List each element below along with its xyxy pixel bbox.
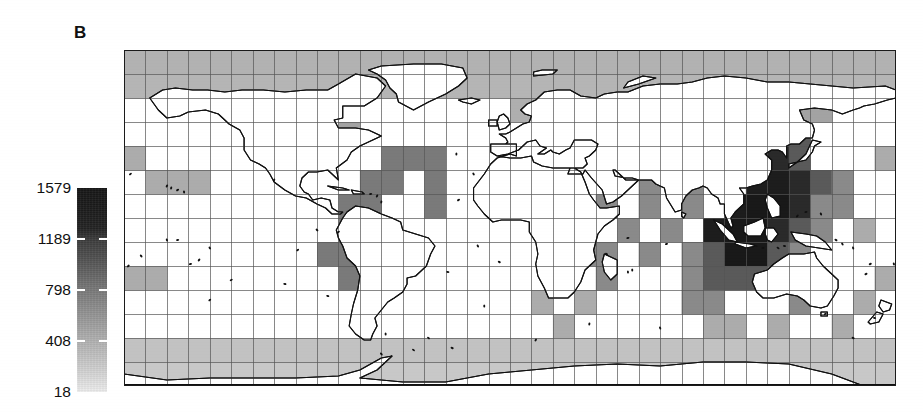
colorbar-tick-mark	[99, 340, 107, 342]
world-grid-map	[124, 50, 896, 386]
colorbar-tick-label: 1579	[5, 180, 71, 196]
colorbar-tick-mark	[77, 340, 85, 342]
colorbar-tick-mark	[77, 289, 85, 291]
colorbar-tick-mark	[77, 238, 85, 240]
map-border-bottom	[124, 385, 896, 386]
colorbar-tick-label: 408	[5, 333, 71, 349]
figure-root: B 1579118979840818	[0, 0, 923, 412]
map-border-right	[895, 50, 896, 386]
colorbar-tick-mark	[99, 289, 107, 291]
colorbar-tick-label: 18	[5, 384, 71, 400]
map-border-left	[124, 50, 125, 386]
colorbar-tick-mark	[99, 238, 107, 240]
map-canvas	[124, 50, 896, 386]
species-richness-colorbar: 1579118979840818	[0, 170, 124, 400]
colorbar-tick-label: 1189	[5, 231, 71, 247]
colorbar-tick-label: 798	[5, 282, 71, 298]
map-border-top	[124, 50, 896, 51]
panel-label: B	[74, 24, 86, 41]
